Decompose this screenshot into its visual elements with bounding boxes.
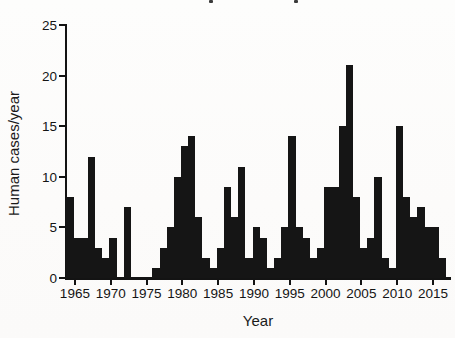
bar-1978 [167,227,174,278]
x-tick-mark [360,280,362,285]
bar-1990 [253,227,260,278]
bar-2009 [389,268,396,278]
bar-2016 [439,258,446,278]
x-tick-label: 1975 [131,287,161,301]
bar-1965 [74,238,81,278]
bar-1995 [288,136,296,278]
x-tick-mark [253,280,255,285]
y-tick-mark [59,226,65,228]
y-tick-label: 20 [31,69,57,82]
x-tick-label: 2010 [382,287,412,301]
bar-1984 [210,268,217,278]
bar-1966 [81,238,88,278]
bar-1991 [260,238,267,278]
bar-1964 [66,197,74,278]
x-tick-mark [217,280,219,285]
bar-1989 [245,258,253,278]
bar-1994 [281,227,288,278]
bar-2001 [331,187,339,278]
bar-1968 [95,248,102,278]
bar-1979 [174,177,181,278]
bar-2006 [367,238,374,278]
bar-2011 [403,197,410,278]
cropped-title-fragment [294,0,298,3]
y-tick-mark [59,176,65,178]
x-axis-title: Year [243,312,273,329]
bar-1967 [88,157,95,278]
bar-1969 [102,258,109,278]
y-tick-label: 10 [31,170,57,183]
bar-1972 [124,207,131,278]
x-tick-mark [146,280,148,285]
x-tick-mark [325,280,327,285]
bar-2014 [425,227,432,278]
y-tick-label: 0 [31,272,57,285]
bar-1988 [238,167,245,278]
bar-1970 [109,238,117,278]
x-tick-label: 1985 [203,287,233,301]
bar-2002 [339,126,346,278]
x-tick-mark [74,280,76,285]
x-tick-mark [289,280,291,285]
bar-1999 [317,248,324,278]
x-tick-mark [396,280,398,285]
y-axis-title: Human cases/year [5,89,22,219]
x-tick-label: 1990 [239,287,269,301]
bar-1982 [195,217,202,278]
y-tick-mark [59,125,65,127]
bar-1985 [217,248,224,278]
x-tick-mark [110,280,112,285]
bar-1983 [202,258,210,278]
x-tick-label: 1965 [60,287,90,301]
bar-1998 [310,258,317,278]
bar-1987 [231,217,238,278]
bar-1986 [224,187,231,278]
y-tick-mark [59,24,65,26]
bar-2004 [353,197,360,278]
x-tick-label: 2015 [418,287,448,301]
y-tick-mark [59,277,65,279]
y-tick-label: 5 [31,221,57,234]
bar-1981 [188,136,195,278]
bar-2007 [374,177,382,278]
bar-2003 [346,65,353,278]
x-tick-label: 2005 [346,287,376,301]
x-tick-label: 1970 [96,287,126,301]
x-tick-label: 1980 [167,287,197,301]
bar-1993 [274,258,281,278]
bar-2015 [432,227,439,278]
bar-2012 [410,217,417,278]
bar-1980 [181,146,188,278]
bar-2000 [324,187,331,278]
cropped-title-fragment [209,0,213,3]
x-tick-mark [432,280,434,285]
bar-2010 [396,126,403,278]
x-tick-label: 2000 [311,287,341,301]
bar-1977 [160,248,167,278]
x-tick-mark [181,280,183,285]
bar-1997 [303,238,310,278]
bar-1992 [267,268,274,278]
bar-1976 [152,268,160,278]
x-tick-label: 1995 [275,287,305,301]
chart-canvas: Human cases/year Year 051015202519651970… [0,0,455,338]
bar-1996 [296,227,303,278]
bar-2008 [382,258,389,278]
bar-2013 [417,207,425,278]
y-tick-mark [59,75,65,77]
y-tick-label: 15 [31,120,57,133]
y-tick-label: 25 [31,19,57,32]
bar-2005 [360,248,367,278]
